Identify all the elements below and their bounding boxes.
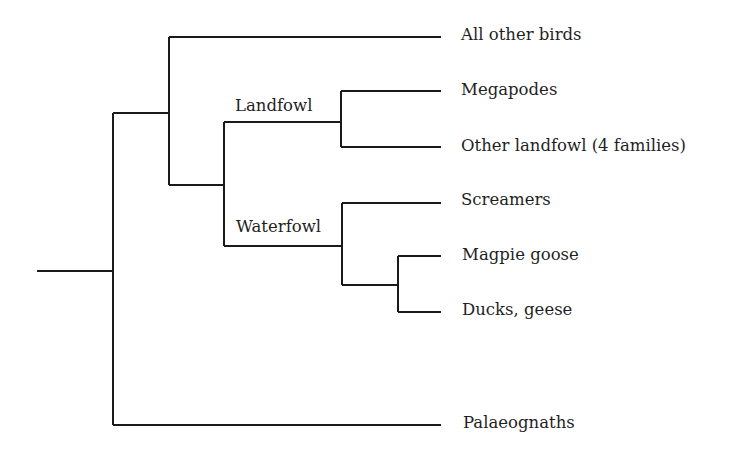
leaf-label-palaeognaths: Palaeognaths <box>463 415 575 432</box>
leaf-label-other-landfowl: Other landfowl (4 families) <box>461 138 686 155</box>
leaf-label-megapodes: Megapodes <box>461 82 557 99</box>
leaf-label-screamers: Screamers <box>461 192 551 209</box>
clade-label-landfowl: Landfowl <box>235 98 312 115</box>
phylogenetic-tree <box>0 0 738 457</box>
leaf-label-magpie-goose: Magpie goose <box>462 247 579 264</box>
leaf-label-ducks-geese: Ducks, geese <box>462 302 572 319</box>
clade-label-waterfowl: Waterfowl <box>236 219 321 236</box>
leaf-label-all-other-birds: All other birds <box>461 27 582 44</box>
